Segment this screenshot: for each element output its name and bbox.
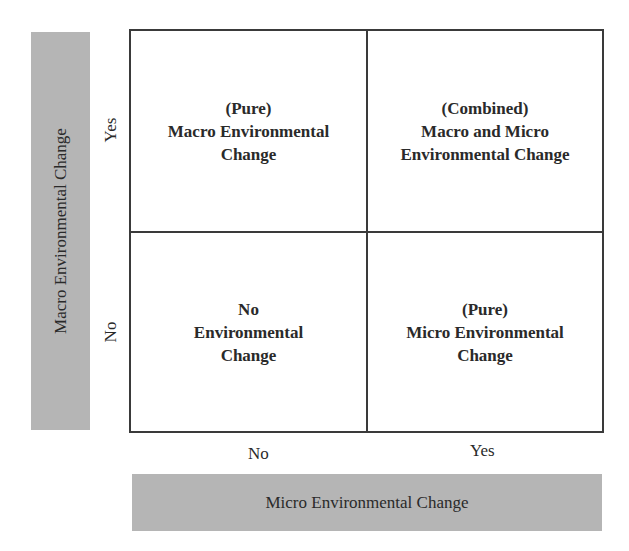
cell-no-change: No Environmental Change <box>131 233 366 431</box>
cell-pure-micro-change: (Pure) Micro Environmental Change <box>368 233 602 431</box>
cell-line: (Combined) <box>442 97 529 120</box>
cell-line: Environmental Change <box>400 143 569 166</box>
x-tick-no: No <box>248 444 269 464</box>
matrix-grid: (Pure) Macro Environmental Change (Combi… <box>129 29 604 433</box>
y-axis-bar: Macro Environmental Change <box>31 32 90 430</box>
cell-line: (Pure) <box>226 97 272 120</box>
cell-line: Macro and Micro <box>421 120 549 143</box>
cell-line: Change <box>221 143 277 166</box>
cell-line: Micro Environmental <box>406 321 564 344</box>
cell-line: Change <box>221 344 277 367</box>
cell-line: Change <box>457 344 513 367</box>
cell-line: Environmental <box>194 321 303 344</box>
y-tick-yes: Yes <box>101 118 121 143</box>
y-tick-no: No <box>101 322 121 343</box>
x-axis-bar: Micro Environmental Change <box>132 474 602 531</box>
cell-line: (Pure) <box>462 298 508 321</box>
cell-combined-change: (Combined) Macro and Micro Environmental… <box>368 31 602 231</box>
x-tick-yes: Yes <box>470 441 495 461</box>
x-axis-label: Micro Environmental Change <box>265 493 468 513</box>
cell-line: Macro Environmental <box>168 120 329 143</box>
cell-pure-macro-change: (Pure) Macro Environmental Change <box>131 31 366 231</box>
cell-line: No <box>238 298 259 321</box>
y-axis-label: Macro Environmental Change <box>51 128 71 334</box>
